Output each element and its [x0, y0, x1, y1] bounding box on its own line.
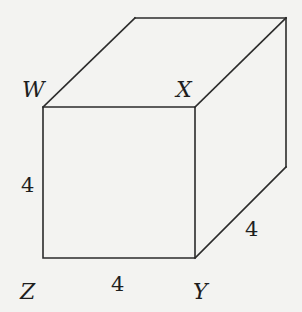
vertex-label-y: Y — [193, 279, 210, 304]
front-face — [43, 107, 195, 258]
edge-top-left-depth — [43, 18, 135, 107]
vertex-label-x: X — [174, 77, 193, 102]
dimension-label-depth: 4 — [245, 217, 258, 241]
cube-diagram: W X Z Y 4 4 4 — [0, 0, 302, 312]
edge-bottom-right-depth — [195, 167, 286, 258]
dimension-label-height: 4 — [21, 173, 34, 197]
edge-top-right-depth — [195, 18, 286, 107]
vertex-label-z: Z — [19, 279, 36, 304]
dimension-label-width: 4 — [111, 272, 124, 296]
vertex-label-w: W — [22, 77, 47, 102]
